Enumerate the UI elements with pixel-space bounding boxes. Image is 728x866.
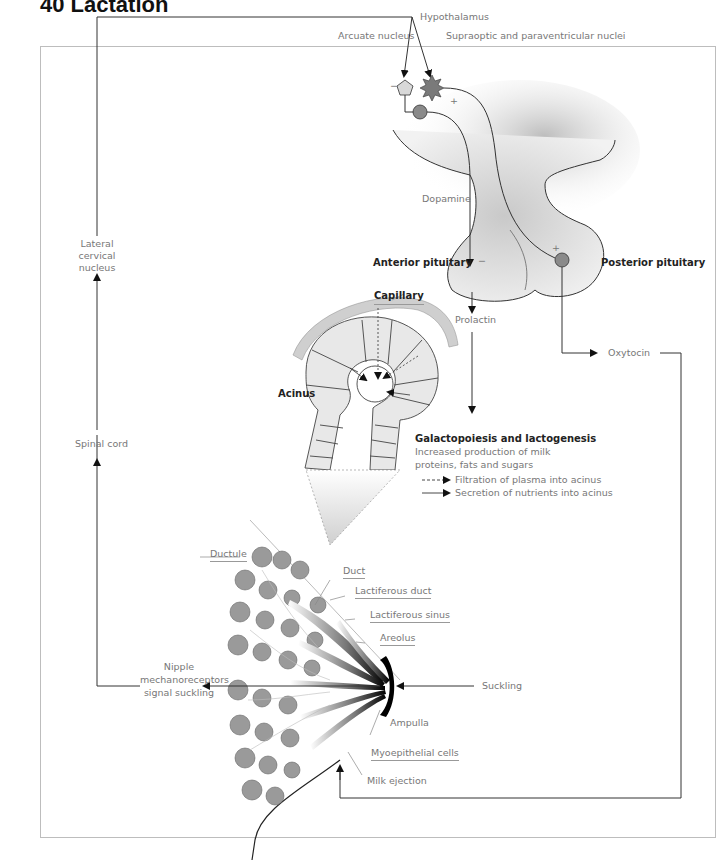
label-oxytocin: Oxytocin: [608, 347, 650, 359]
label-milk-ejection: Milk ejection: [367, 775, 427, 787]
sign-minus-arcuate: −: [390, 80, 398, 92]
label-ductule: Ductule: [210, 548, 247, 562]
label-ampulla: Ampulla: [390, 717, 429, 729]
lactation-diagram: [0, 0, 728, 866]
legend-item-secretion: Secretion of nutrients into acinus: [455, 487, 613, 499]
label-arcuate-nucleus: Arcuate nucleus: [338, 30, 415, 42]
label-galacto-line1: Increased production of milk: [415, 446, 551, 458]
label-lateral-cervical-nucleus: Lateral cervical nucleus: [60, 238, 134, 274]
sign-minus-anterior: −: [478, 255, 486, 267]
label-nipple-line1: Nipple: [140, 661, 218, 673]
label-nipple-line3: signal suckling: [140, 687, 218, 699]
label-prolactin: Prolactin: [455, 314, 496, 326]
legend-lines: [422, 480, 449, 493]
sign-plus-posterior: +: [552, 242, 560, 254]
label-posterior-pituitary: Posterior pituitary: [601, 257, 705, 270]
label-capillary: Capillary: [374, 290, 424, 305]
label-spinal-cord: Spinal cord: [75, 438, 128, 450]
pituitary-gland: [393, 130, 615, 301]
label-duct: Duct: [343, 565, 365, 579]
label-nipple-line2: mechanoreceptors: [140, 674, 218, 686]
label-galacto-line2: proteins, fats and sugars: [415, 459, 533, 471]
label-lactiferous-sinus: Lactiferous sinus: [370, 609, 450, 623]
label-hypothalamus: Hypothalamus: [420, 11, 489, 23]
label-galacto-title: Galactopoiesis and lactogenesis: [415, 433, 596, 446]
label-supraoptic-nuclei: Supraoptic and paraventricular nuclei: [446, 30, 626, 42]
label-myoepithelial-cells: Myoepithelial cells: [371, 747, 459, 761]
label-acinus: Acinus: [278, 388, 315, 401]
zoom-cone: [306, 470, 400, 545]
label-suckling: Suckling: [482, 680, 522, 692]
label-areolus: Areolus: [380, 632, 415, 646]
label-anterior-pituitary: Anterior pituitary: [373, 257, 472, 270]
label-lactiferous-duct: Lactiferous duct: [355, 585, 431, 599]
label-dopamine: Dopamine: [422, 193, 471, 205]
sign-plus-supraoptic: +: [450, 95, 458, 107]
legend-item-filtration: Filtration of plasma into acinus: [455, 474, 601, 486]
